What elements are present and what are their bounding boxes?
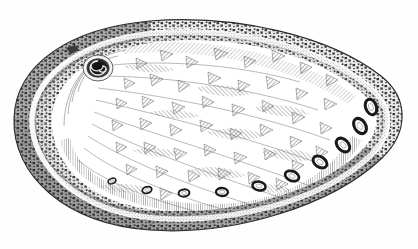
spire-apex — [83, 55, 113, 81]
figure-root — [0, 0, 418, 249]
respiratory-hole — [216, 188, 228, 196]
respiratory-hole — [178, 189, 189, 197]
shell-illustration — [0, 0, 418, 249]
